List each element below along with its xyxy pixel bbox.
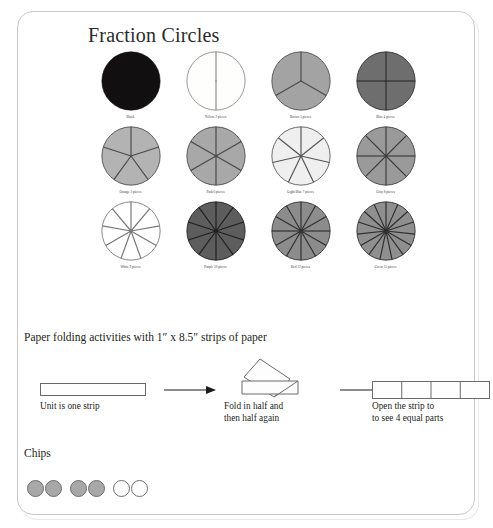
circle-figure bbox=[355, 200, 417, 262]
fold-step-3-caption-line2: to see 4 equal parts bbox=[372, 413, 443, 425]
fold-step-2-caption-line2: then half again bbox=[224, 413, 279, 425]
fold-step-2-caption-line1: Fold in half and bbox=[224, 401, 283, 413]
circle-center-hub bbox=[214, 229, 217, 232]
fraction-circle-light-blue[interactable]: Light Blue 7 pieces bbox=[258, 125, 343, 195]
circle-center-hub bbox=[300, 155, 301, 156]
fraction-circle-label: Gray 8 pieces bbox=[376, 190, 395, 195]
circle-center-hub bbox=[300, 80, 301, 81]
circle-figure bbox=[270, 200, 332, 262]
paper-folding-heading: Paper folding activities with 1″ x 8.5″ … bbox=[24, 331, 267, 343]
fraction-circle-label: Yellow 2 pieces bbox=[205, 115, 227, 120]
circle-center-hub bbox=[130, 155, 131, 156]
circle-figure bbox=[185, 125, 247, 187]
arrow-right-icon-1 bbox=[164, 383, 216, 397]
fraction-circle-label: Light Blue 7 pieces bbox=[287, 190, 313, 195]
fraction-circle-purple[interactable]: Purple 10 pieces bbox=[173, 200, 258, 270]
fraction-circle-pink[interactable]: Pink 6 pieces bbox=[173, 125, 258, 195]
circle-figure bbox=[100, 200, 162, 262]
chip[interactable] bbox=[131, 480, 148, 497]
fraction-circle-brown[interactable]: Brown 3 pieces bbox=[258, 50, 343, 120]
circle-center-hub bbox=[385, 80, 386, 81]
fraction-circle-green[interactable]: Green 15 pieces bbox=[343, 200, 428, 270]
circle-center-hub bbox=[299, 229, 302, 232]
fraction-circle-label: Green 15 pieces bbox=[375, 265, 397, 270]
page-title: Fraction Circles bbox=[88, 24, 220, 47]
chip[interactable] bbox=[70, 480, 87, 497]
circle-figure bbox=[355, 50, 417, 112]
circle-figure bbox=[355, 125, 417, 187]
chip[interactable] bbox=[27, 480, 44, 497]
chips-row bbox=[27, 480, 148, 497]
chip[interactable] bbox=[113, 480, 130, 497]
fraction-circle-gray[interactable]: Gray 8 pieces bbox=[343, 125, 428, 195]
fraction-circle-label: Black bbox=[127, 115, 135, 120]
four-part-strip bbox=[372, 381, 490, 399]
worksheet-page: Fraction Circles BlackYellow 2 piecesBro… bbox=[0, 0, 493, 528]
chip[interactable] bbox=[88, 480, 105, 497]
fraction-circle-orange[interactable]: Orange 5 pieces bbox=[88, 125, 173, 195]
fraction-circle-blue[interactable]: Blue 4 pieces bbox=[343, 50, 428, 120]
fraction-circle-label: Pink 6 pieces bbox=[206, 190, 224, 195]
fold-step-3-caption-line1: Open the strip to bbox=[372, 401, 434, 413]
chips-heading: Chips bbox=[24, 447, 51, 459]
fraction-circle-label: Blue 4 pieces bbox=[376, 115, 394, 120]
fraction-circle-label: White 9 pieces bbox=[120, 265, 140, 270]
circle-figure bbox=[100, 125, 162, 187]
fold-step-1: Unit is one strip bbox=[32, 365, 162, 440]
fraction-circle-row: Orange 5 piecesPink 6 piecesLight Blue 7… bbox=[88, 125, 428, 195]
fraction-circle-label: Red 12 pieces bbox=[291, 265, 310, 270]
circle-figure bbox=[270, 50, 332, 112]
circle-center-hub bbox=[129, 229, 132, 232]
fraction-circle-label: Purple 10 pieces bbox=[204, 265, 226, 270]
fraction-circle-white[interactable]: White 9 pieces bbox=[88, 200, 173, 270]
circle-center-hub bbox=[384, 229, 387, 232]
fraction-circle-black[interactable]: Black bbox=[88, 50, 173, 120]
fraction-circle-red[interactable]: Red 12 pieces bbox=[258, 200, 343, 270]
fraction-circles-grid: BlackYellow 2 piecesBrown 3 piecesBlue 4… bbox=[88, 50, 428, 275]
circle-center-hub bbox=[215, 80, 216, 81]
circle-figure bbox=[185, 50, 247, 112]
circle-figure bbox=[270, 125, 332, 187]
fraction-circle-yellow[interactable]: Yellow 2 pieces bbox=[173, 50, 258, 120]
fold-step-1-caption-line1: Unit is one strip bbox=[40, 401, 100, 413]
fraction-circle-label: Orange 5 pieces bbox=[120, 190, 142, 195]
circle-figure bbox=[100, 50, 162, 112]
circle-figure bbox=[185, 200, 247, 262]
chip[interactable] bbox=[45, 480, 62, 497]
unit-strip bbox=[40, 383, 146, 396]
fraction-circle-row: White 9 piecesPurple 10 piecesRed 12 pie… bbox=[88, 200, 428, 270]
fraction-circle-label: Brown 3 pieces bbox=[290, 115, 311, 120]
circle-center-hub bbox=[385, 155, 386, 156]
circle-center-hub bbox=[215, 155, 216, 156]
fraction-circle-row: BlackYellow 2 piecesBrown 3 piecesBlue 4… bbox=[88, 50, 428, 120]
fold-step-2: Fold in half and then half again bbox=[220, 365, 350, 440]
folded-strip-figure bbox=[224, 357, 334, 401]
paper-folding-diagram: Unit is one strip Fold in half and then … bbox=[24, 365, 464, 440]
fold-step-3: Open the strip to to see 4 equal parts bbox=[348, 365, 488, 440]
